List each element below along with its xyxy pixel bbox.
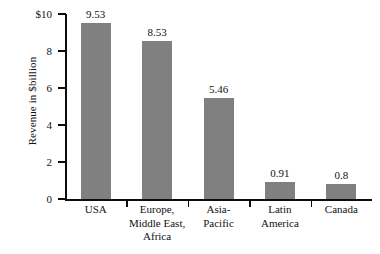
y-tick-mark (58, 161, 66, 162)
bar (204, 98, 234, 199)
y-tick-label: 2 (6, 156, 52, 168)
y-tick-label: 8 (6, 45, 52, 57)
category-label-line: Middle East, (126, 217, 187, 231)
bar-chart: Revenue in $billion 02468$10 9.538.535.4… (0, 0, 380, 254)
bar-value-label: 5.46 (189, 83, 249, 95)
y-tick-mark (58, 50, 66, 51)
x-axis-line (65, 199, 372, 201)
y-axis-line (65, 14, 67, 199)
plot-area: 02468$10 9.538.535.460.910.8 (65, 14, 372, 199)
y-tick-label: $10 (6, 8, 52, 20)
y-tick-mark (58, 124, 66, 125)
bar (265, 182, 295, 199)
category-label: Asia-Pacific (188, 203, 249, 230)
category-label-line: Pacific (188, 217, 249, 231)
y-tick-mark (58, 198, 66, 199)
category-label-line: Latin (249, 203, 310, 217)
category-label: Canada (311, 203, 372, 217)
y-tick-label: 4 (6, 119, 52, 131)
y-tick-mark (58, 87, 66, 88)
category-label: Europe,Middle East,Africa (126, 203, 187, 244)
y-tick-label: 0 (6, 193, 52, 205)
category-label: USA (65, 203, 126, 217)
y-tick-label: 6 (6, 82, 52, 94)
bar-value-label: 0.91 (250, 167, 310, 179)
category-label-line: Europe, (126, 203, 187, 217)
category-label-line: America (249, 217, 310, 231)
bar (142, 41, 172, 199)
bar-value-label: 8.53 (127, 26, 187, 38)
bar-value-label: 0.8 (311, 169, 371, 181)
category-label-line: Asia- (188, 203, 249, 217)
category-label: LatinAmerica (249, 203, 310, 230)
bar (81, 23, 111, 199)
category-label-line: USA (65, 203, 126, 217)
category-label-line: Africa (126, 230, 187, 244)
bar (326, 184, 356, 199)
bar-value-label: 9.53 (66, 8, 126, 20)
category-label-line: Canada (311, 203, 372, 217)
